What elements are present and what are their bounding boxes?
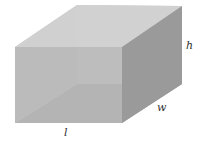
height-label: h (186, 39, 193, 52)
box-diagram: h w l (0, 0, 199, 142)
width-label: w (157, 101, 167, 114)
front-face (15, 47, 122, 123)
length-label: l (64, 126, 68, 139)
